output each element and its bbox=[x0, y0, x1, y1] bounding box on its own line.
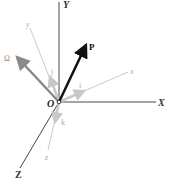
rotating-frame-diagram: Y X Z y x z j i k P Ω O bbox=[0, 0, 171, 182]
label-unit-i: i bbox=[79, 81, 82, 90]
vector-omega bbox=[17, 57, 59, 102]
label-unit-j: j bbox=[50, 67, 53, 76]
label-rotating-x: x bbox=[129, 67, 134, 76]
label-fixed-y: Y bbox=[63, 0, 70, 10]
label-fixed-z: Z bbox=[15, 169, 22, 180]
label-origin: O bbox=[47, 98, 54, 109]
origin-point bbox=[57, 100, 61, 104]
label-vector-p: P bbox=[89, 42, 95, 52]
label-rotating-y: y bbox=[25, 20, 30, 29]
label-rotating-z: z bbox=[44, 153, 49, 162]
label-vector-omega: Ω bbox=[4, 54, 10, 63]
label-fixed-x: X bbox=[157, 97, 165, 108]
vector-p bbox=[59, 45, 86, 102]
fixed-axis-z bbox=[20, 102, 59, 168]
label-unit-k: k bbox=[61, 118, 65, 127]
